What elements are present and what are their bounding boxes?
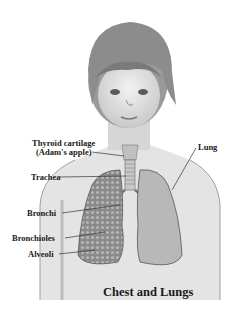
label-lung: Lung xyxy=(198,143,217,152)
label-bronchi: Bronchi xyxy=(27,209,56,218)
figure-title: Chest and Lungs xyxy=(103,285,193,300)
label-alveoli: Alveoli xyxy=(28,250,54,259)
label-bronchioles: Bronchioles xyxy=(12,234,55,243)
chest-lungs-diagram: Thyroid cartilage (Adam's apple) Trachea… xyxy=(0,0,245,311)
label-trachea: Trachea xyxy=(31,173,61,182)
child-head xyxy=(88,22,176,128)
label-adams-apple: (Adam's apple) xyxy=(36,148,92,157)
